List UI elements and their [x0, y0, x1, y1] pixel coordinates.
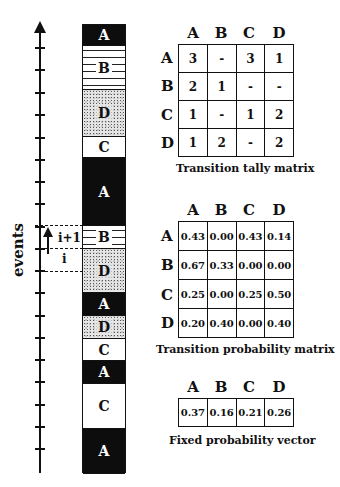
- tally-matrix-caption: Transition tally matrix: [176, 162, 314, 175]
- matrix-cell: 0.00: [236, 309, 265, 338]
- column-header: C: [241, 201, 257, 219]
- column-header: B: [213, 24, 229, 42]
- state-segment-b: B: [83, 226, 125, 249]
- axis-tick: [35, 69, 45, 71]
- column-header: D: [271, 378, 287, 396]
- axis-tick: [35, 159, 45, 161]
- matrix-row: 0.670.330.000.00: [179, 251, 294, 280]
- transition-probability-matrix: 0.430.000.430.140.670.330.000.000.250.00…: [178, 221, 294, 338]
- matrix-cell: 1: [236, 101, 265, 129]
- event-label-i-plus-1: i+1: [58, 231, 81, 245]
- matrix-cell: 2: [265, 129, 294, 157]
- state-sequence-column: ABDCABDADCACA: [82, 24, 126, 473]
- vector-cell: 0.37: [179, 399, 208, 427]
- matrix-cell: 0.40: [207, 309, 236, 338]
- row-header: B: [161, 256, 174, 274]
- matrix-cell: 1: [265, 45, 294, 73]
- matrix-cell: 0.67: [179, 251, 208, 280]
- axis-label: events: [8, 220, 28, 280]
- matrix-cell: 2: [179, 73, 208, 101]
- event-arrow-shaft: [47, 234, 49, 254]
- matrix-cell: 2: [207, 129, 236, 157]
- matrix-cell: 0.20: [179, 309, 208, 338]
- row-header: C: [161, 106, 173, 124]
- vector-cell: 0.26: [265, 399, 294, 427]
- state-segment-d: D: [83, 316, 125, 339]
- matrix-cell: 0.43: [236, 222, 265, 251]
- state-label: A: [97, 296, 112, 312]
- axis-tick: [35, 92, 45, 94]
- probability-matrix-caption: Transition probability matrix: [156, 343, 335, 356]
- matrix-cell: 0.25: [236, 280, 265, 309]
- fixed-probability-vector: 0.370.160.210.26: [178, 398, 294, 427]
- matrix-cell: 0.00: [265, 251, 294, 280]
- column-header: B: [213, 378, 229, 396]
- matrix-row: 21--: [179, 73, 294, 101]
- column-header: C: [241, 378, 257, 396]
- vector-cell: 0.21: [236, 399, 265, 427]
- matrix-cell: -: [265, 73, 294, 101]
- matrix-cell: 1: [179, 129, 208, 157]
- axis-tick: [35, 404, 45, 406]
- matrix-cell: -: [207, 101, 236, 129]
- matrix-row: 12-2: [179, 129, 294, 157]
- state-segment-a: A: [83, 158, 125, 226]
- matrix-cell: 0.14: [265, 222, 294, 251]
- matrix-cell: 0.43: [179, 222, 208, 251]
- axis-tick: [35, 137, 45, 139]
- state-segment-a: A: [83, 429, 125, 474]
- state-label: D: [96, 319, 112, 335]
- matrix-cell: -: [236, 73, 265, 101]
- axis-tick: [35, 47, 45, 49]
- state-label: C: [96, 342, 111, 358]
- matrix-cell: 0.00: [236, 251, 265, 280]
- matrix-cell: 0.00: [207, 280, 236, 309]
- axis-tick: [35, 426, 45, 428]
- state-label: A: [97, 364, 112, 380]
- state-label: B: [96, 229, 112, 245]
- state-label: A: [97, 443, 112, 459]
- event-boundary-middle: [35, 248, 83, 249]
- state-segment-a: A: [83, 361, 125, 384]
- axis-tick: [35, 448, 45, 450]
- matrix-cell: -: [236, 129, 265, 157]
- matrix-row: 3-31: [179, 45, 294, 73]
- matrix-row: 1-12: [179, 101, 294, 129]
- matrix-cell: 3: [236, 45, 265, 73]
- column-header: A: [185, 201, 201, 219]
- event-boundary-lower: [35, 271, 83, 272]
- state-segment-d: D: [83, 90, 125, 137]
- event-label-i: i: [62, 252, 67, 266]
- matrix-cell: 0.50: [265, 280, 294, 309]
- row-header: D: [161, 314, 174, 332]
- state-label: D: [96, 105, 112, 121]
- state-label: B: [96, 60, 112, 76]
- matrix-cell: -: [207, 45, 236, 73]
- vector-row: 0.370.160.210.26: [179, 399, 294, 427]
- matrix-cell: 1: [179, 101, 208, 129]
- column-header: A: [185, 24, 201, 42]
- state-segment-b: B: [83, 46, 125, 90]
- matrix-row: 0.430.000.430.14: [179, 222, 294, 251]
- axis-tick: [35, 181, 45, 183]
- state-label: D: [96, 263, 112, 279]
- axis-tick: [35, 315, 45, 317]
- matrix-cell: 3: [179, 45, 208, 73]
- axis-tick: [35, 381, 45, 383]
- row-header: C: [161, 286, 173, 304]
- matrix-cell: 0.33: [207, 251, 236, 280]
- state-segment-c: C: [83, 339, 125, 361]
- state-segment-c: C: [83, 137, 125, 158]
- column-header: B: [213, 201, 229, 219]
- row-header: A: [161, 227, 173, 245]
- event-boundary-upper: [35, 225, 83, 226]
- matrix-cell: 0.25: [179, 280, 208, 309]
- state-label: A: [97, 27, 112, 43]
- matrix-cell: 1: [207, 73, 236, 101]
- axis-tick: [35, 292, 45, 294]
- matrix-cell: 0.40: [265, 309, 294, 338]
- column-header: A: [185, 378, 201, 396]
- axis-tick: [35, 203, 45, 205]
- column-header: D: [271, 24, 287, 42]
- matrix-row: 0.250.000.250.50: [179, 280, 294, 309]
